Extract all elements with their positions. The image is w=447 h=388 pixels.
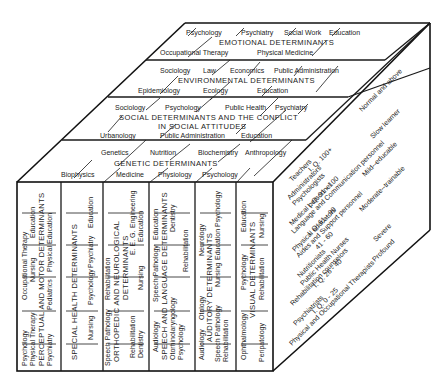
discipline-label: Public Administration [160,132,225,139]
layer-genetic: Genetics Nutrition Biochemistry Anthropo… [61,149,287,179]
column-title: SPEECH AND LANGUAGE DETERMINANTS [160,192,169,360]
layer-title: SOCIAL DETERMINANTS AND THE CONFLICT [119,113,298,122]
discipline-label: Physical Therapy [29,312,37,366]
discipline-label: Education [137,211,144,242]
discipline-label: Rehabilitation [104,257,111,300]
discipline-label: Epidemiology [138,87,181,95]
discipline-label: Psychology [177,324,185,360]
discipline-label: Nursing [87,316,95,340]
discipline-label: Education [240,201,247,232]
discipline-label: Public Health [225,104,266,111]
discipline-label: Peripatology [258,323,266,362]
discipline-label: Nursing [214,263,222,287]
discipline-label: Rehabilitation [222,319,229,362]
layer-title: IN SOCIAL ATTITUDES [158,122,246,131]
discipline-label: Rehabilitation [258,257,265,300]
discipline-label: Audiology [152,321,160,352]
level-label: Slow learner [369,107,402,140]
personnel-label: Aides and Support personnel [295,190,365,260]
layer-social: Sociology Psychology Public Health Psych… [100,104,308,140]
discipline-label: Nursing [258,214,266,238]
layer-title: EMOTIONAL DETERMINANTS [219,38,334,47]
column-visual: Ophthalmology Psychology Education VISUA… [240,201,266,362]
discipline-label: Dentistry [137,330,145,358]
discipline-label: Anthropology [245,149,287,157]
discipline-label: Medicine [116,171,144,178]
discipline-label: Psychiatry [275,104,308,112]
discipline-label: Law [203,67,217,74]
discipline-label: Education [152,209,159,240]
discipline-label: Education [241,132,272,139]
discipline-label: Nursing [137,266,145,290]
discipline-label: Occupational Therapy [21,231,29,300]
column-auditory: Audiology Otology Neurology AUDITORY DET… [198,191,229,362]
layer-environmental: Sociology Law Economics Public Administr… [138,67,339,95]
discipline-label: Engineering [129,191,137,228]
discipline-label: Psychology [186,29,222,37]
discipline-label: Psychiatry [87,235,95,268]
discipline-label: Nursing [29,258,37,282]
layer-title: ENVIRONMENTAL DETERMINANTS [178,76,315,85]
discipline-label: Otorhinolaryngology [169,297,177,360]
discipline-label: Education [87,197,94,228]
discipline-label: Speech Pathology [152,245,160,302]
discipline-label: Economics [230,67,265,74]
column-perceptual-motor: Psychology Occupational Therapy Physical… [21,192,54,366]
discipline-label: Psychology [21,330,29,366]
discipline-label: Dentistry [169,204,177,232]
column-title: SPECIAL HEALTH DETERMINANTS [70,224,79,360]
discipline-label: Speech Pathology [214,305,222,362]
discipline-label: Biophysics [61,171,95,179]
column-title: VISUAL DETERMINANTS [248,222,257,318]
column-special-health: SPECIAL HEALTH DETERMINANTS Nursing Psyc… [70,197,95,360]
discipline-label: Ecology [203,87,228,95]
discipline-label: Rehabilitation [129,315,136,358]
discipline-label: Speech Pathology [104,309,112,366]
discipline-label: Sociology [115,104,146,112]
discipline-label: Psychology [202,171,238,179]
discipline-label: Urbanology [100,132,136,140]
discipline-label: Psychology [165,104,201,112]
discipline-label: Social Work [284,29,322,36]
discipline-label: Sociology [160,67,191,75]
discipline-label: Biochemistry [198,149,239,157]
discipline-label: Occupational Therapy [160,49,229,57]
discipline-label: Physical Education [46,213,54,272]
discipline-label: Psychology [240,254,248,290]
discipline-label: E. E. G. [129,230,136,255]
discipline-label: Pediatrics [46,279,53,310]
discipline-label: Public Administration [274,67,339,74]
discipline-label: Physiology [158,171,192,179]
discipline-label: Education [257,87,288,94]
discipline-label: Physical Medicine [257,49,313,57]
discipline-label: Ophthalmology [240,312,248,360]
cube-diagram: Psychology Psychiatry Social Work Educat… [0,0,447,388]
column-title: ORTHOPEDIC AND NEUROLOGICAL [112,221,121,362]
discipline-label: Psychiatry [46,333,54,366]
discipline-label: Rehabilitation [182,229,189,272]
layer-title: GENETIC DETERMINANTS [114,159,218,168]
column-title: PERCEPTUAL AND MOTOR DETERMINANTS [37,192,46,366]
column-title: AUDITORY DETERMINANTS [205,233,214,342]
front-face-ticks [22,213,268,344]
discipline-label: Genetics [101,149,129,156]
discipline-label: Psychology [87,269,95,305]
layer-emotional: Psychology Psychiatry Social Work Educat… [160,29,360,57]
discipline-label: Psychiatry [241,29,274,37]
discipline-label: Education Psychology [214,191,222,260]
discipline-label: Education [329,29,360,36]
column-speech-language: Audiology Speech Pathology Education SPE… [152,192,189,360]
discipline-label: Education [29,207,36,238]
column-orthopedic-neurological: Speech Pathology Rehabilitation ORTHOPED… [104,191,145,366]
discipline-label: Nutrition [150,149,176,156]
